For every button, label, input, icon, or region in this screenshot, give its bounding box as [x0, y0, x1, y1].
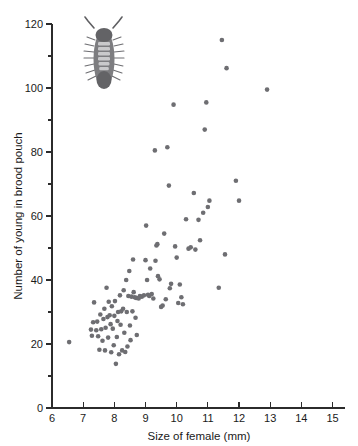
data-point [202, 127, 207, 132]
y-tick-label: 100 [25, 82, 43, 94]
data-point [108, 322, 113, 327]
data-point [104, 285, 109, 290]
data-point [101, 317, 106, 322]
data-point [113, 299, 118, 304]
data-point [179, 295, 184, 300]
data-point [173, 244, 178, 249]
data-point [167, 183, 172, 188]
data-point [91, 320, 96, 325]
data-point [67, 340, 72, 345]
woodlouse-isopod-illustration [84, 17, 124, 89]
data-point [142, 293, 147, 298]
data-point [118, 293, 123, 298]
data-point [153, 148, 158, 153]
data-point [115, 335, 120, 340]
data-point [178, 282, 183, 287]
scatter-plot-figure: 0204060801001206789101112131415 Size of … [0, 0, 358, 446]
data-point [115, 319, 120, 324]
chart-axes [46, 24, 345, 408]
data-point [127, 269, 132, 274]
data-point [112, 314, 117, 319]
data-point [184, 217, 189, 222]
data-point [103, 348, 108, 353]
data-point [206, 205, 211, 210]
data-point [153, 259, 158, 264]
y-axis-label: Number of young in brood pouch [12, 132, 24, 300]
y-tick-label: 0 [37, 402, 43, 414]
x-tick-label: 13 [264, 412, 276, 424]
data-point [176, 301, 181, 306]
data-point [157, 277, 162, 282]
data-point [118, 323, 123, 328]
data-point [131, 290, 136, 295]
data-point [193, 247, 198, 252]
chart-canvas: 0204060801001206789101112131415 Size of … [0, 0, 358, 446]
chart-tick-labels: 0204060801001206789101112131415 [25, 18, 339, 424]
data-point [121, 307, 126, 312]
data-point [125, 344, 130, 349]
data-point [134, 333, 139, 338]
data-point [128, 338, 133, 343]
data-point [174, 255, 179, 260]
data-point [145, 278, 150, 283]
data-point [114, 362, 119, 367]
data-point [198, 238, 203, 243]
data-point [234, 179, 239, 184]
y-tick-label: 60 [31, 210, 43, 222]
x-tick-label: 11 [202, 412, 213, 424]
data-point [102, 307, 107, 312]
data-point [131, 257, 136, 262]
data-point [162, 231, 167, 236]
x-axis-label: Size of female (mm) [148, 430, 251, 442]
data-point [149, 292, 154, 297]
data-point [144, 223, 149, 228]
data-point [130, 309, 135, 314]
scatter-points-group [67, 38, 270, 366]
data-point [124, 278, 129, 283]
data-point [216, 285, 221, 290]
x-tick-label: 6 [49, 412, 55, 424]
data-point [181, 302, 186, 307]
data-point [110, 304, 115, 309]
data-point [107, 313, 112, 318]
data-point [196, 218, 201, 223]
data-point [98, 312, 103, 317]
x-tick-label: 12 [233, 412, 245, 424]
data-point [99, 327, 104, 332]
data-point [220, 38, 225, 43]
y-tick-label: 40 [31, 274, 43, 286]
data-point [188, 245, 193, 250]
data-point [171, 102, 176, 107]
data-point [106, 335, 111, 340]
data-point [117, 352, 122, 357]
data-point [97, 347, 102, 352]
data-point [201, 211, 206, 216]
data-point [151, 296, 156, 301]
data-point [106, 299, 111, 304]
data-point [94, 328, 99, 333]
data-point [143, 258, 148, 263]
data-point [168, 286, 173, 291]
x-tick-label: 9 [142, 412, 148, 424]
data-point [148, 266, 153, 271]
data-point [111, 343, 116, 348]
data-point [155, 242, 160, 247]
x-tick-label: 15 [326, 412, 338, 424]
data-point [165, 145, 170, 150]
data-point [207, 198, 212, 203]
data-point [133, 315, 138, 320]
data-point [90, 333, 95, 338]
data-point [125, 310, 130, 315]
data-point [110, 326, 115, 331]
data-point [96, 334, 101, 339]
data-point [163, 297, 168, 302]
data-point [204, 100, 209, 105]
data-point [103, 325, 108, 330]
x-tick-label: 7 [80, 412, 86, 424]
data-point [128, 323, 133, 328]
data-point [122, 331, 127, 336]
data-point [224, 66, 229, 71]
y-tick-label: 80 [31, 146, 43, 158]
data-point [160, 303, 165, 308]
data-point [265, 87, 270, 92]
